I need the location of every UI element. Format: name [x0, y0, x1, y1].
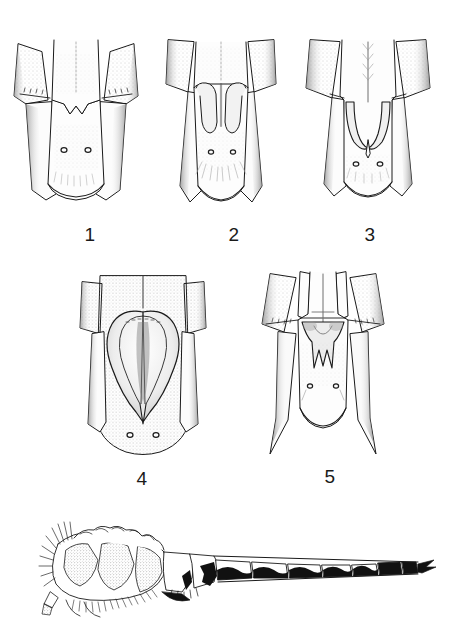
figure-label-4: 4: [122, 468, 162, 490]
figure-label-5: 5: [310, 466, 350, 488]
figure-label-1: 1: [70, 224, 110, 246]
figure-label-2: 2: [214, 224, 254, 246]
figure-2-drawing: [166, 40, 276, 202]
figure-1: [12, 38, 140, 218]
figure-label-3: 3: [350, 224, 390, 246]
figure-2: [166, 36, 276, 216]
figure-1-drawing: [14, 40, 138, 200]
figure-5-drawing: [262, 272, 384, 454]
figure-4: [78, 272, 208, 462]
figure-3: [306, 36, 430, 216]
figure-4-drawing: [80, 276, 206, 455]
figure-3-drawing: [306, 40, 430, 197]
illustration-plate: 1: [0, 0, 449, 626]
figure-5: [262, 268, 384, 468]
figure-lateral-habitus: [14, 520, 438, 620]
habitus-drawing: [39, 522, 436, 617]
